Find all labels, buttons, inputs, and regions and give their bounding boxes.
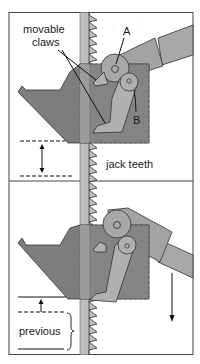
jack-diagram: movable claws A B jack teeth p [0,0,200,364]
pivot-b [127,79,131,83]
label-claws: claws [32,36,60,48]
label-jack-teeth: jack teeth [105,158,153,170]
label-movable: movable [23,23,65,35]
label-pivot-a: A [123,25,131,37]
label-pivot-b: B [133,114,140,126]
pivot-a [112,66,119,73]
label-previous: previous [19,325,61,337]
